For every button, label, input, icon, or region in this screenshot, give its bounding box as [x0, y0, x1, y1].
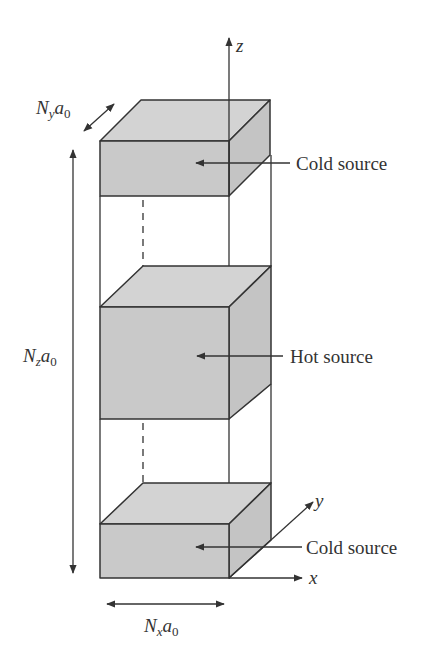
nx-label: Nxa0: [143, 615, 178, 639]
nz-label: Nza0: [22, 345, 57, 369]
svg-text:Cold source: Cold source: [296, 153, 387, 174]
x-axis-label: x: [308, 567, 318, 588]
ny-dimension: Nya0: [35, 97, 114, 131]
hot-source-box: [100, 266, 271, 419]
simulation-box-diagram: z x y Cold source Hot source Cold source…: [0, 0, 432, 651]
ny-label: Nya0: [35, 97, 70, 121]
diagram-canvas: z x y Cold source Hot source Cold source…: [0, 0, 432, 651]
nx-dimension: Nxa0: [107, 604, 224, 639]
y-axis-label: y: [313, 490, 324, 511]
cold-source-box-top: [100, 100, 270, 196]
svg-text:Hot source: Hot source: [290, 346, 373, 367]
nz-dimension: Nza0: [22, 150, 73, 573]
svg-text:Cold source: Cold source: [306, 537, 397, 558]
x-axis: x: [229, 567, 318, 588]
z-axis-label: z: [235, 35, 244, 56]
